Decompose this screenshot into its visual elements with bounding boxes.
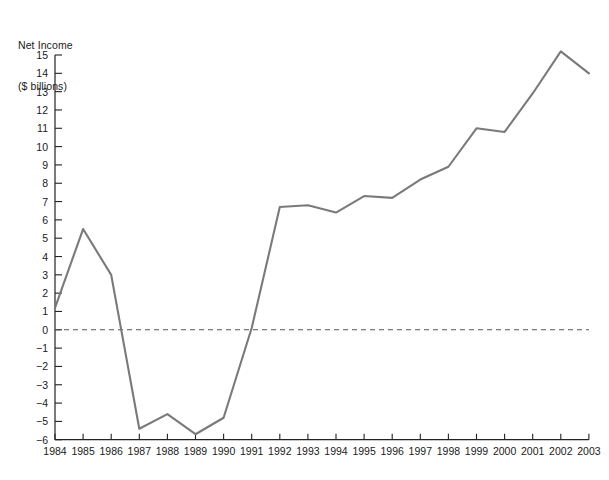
y-tick-label: 11 [37, 122, 48, 134]
x-tick-label: 2003 [577, 445, 601, 457]
x-tick-label: 1987 [128, 445, 152, 457]
x-tick-label: 1994 [324, 445, 348, 457]
x-tick-label: 1991 [240, 445, 264, 457]
y-axis-ticks: 1514131211109876543210−1−2−3−4−5−6 [36, 49, 62, 446]
x-tick-label: 1996 [381, 445, 405, 457]
net-income-series-line [55, 51, 589, 434]
y-tick-label: −5 [36, 415, 48, 427]
x-tick-label: 1986 [100, 445, 124, 457]
y-tick-label: 0 [42, 324, 48, 336]
y-tick-label: −3 [36, 379, 48, 391]
x-tick-label: 1984 [43, 445, 67, 457]
plot-area: 1514131211109876543210−1−2−3−4−5−6 19841… [0, 0, 609, 480]
y-tick-label: 6 [42, 214, 48, 226]
y-tick-label: 1 [42, 305, 48, 317]
x-tick-label: 1990 [212, 445, 236, 457]
y-tick-label: −4 [36, 397, 48, 409]
y-tick-label: 7 [42, 196, 48, 208]
x-tick-label: 1997 [409, 445, 433, 457]
x-tick-label: 1988 [156, 445, 180, 457]
x-tick-label: 1998 [437, 445, 461, 457]
x-tick-label: 1992 [268, 445, 292, 457]
x-tick-label: 1993 [296, 445, 320, 457]
net-income-line-chart: Net Income ($ billions) 1514131211109876… [0, 0, 609, 480]
y-tick-label: −1 [36, 342, 48, 354]
y-tick-label: 4 [42, 251, 48, 263]
x-tick-label: 1995 [352, 445, 376, 457]
y-tick-label: 13 [36, 86, 48, 98]
x-tick-label: 2000 [493, 445, 517, 457]
x-tick-label: 1989 [184, 445, 208, 457]
y-tick-label: −2 [36, 360, 48, 372]
y-tick-label: 2 [42, 287, 48, 299]
x-axis-ticks: 1984198519861987198819891990199119921993… [43, 434, 600, 457]
x-tick-label: 1985 [71, 445, 95, 457]
x-tick-label: 2001 [521, 445, 545, 457]
y-tick-label: 14 [36, 67, 48, 79]
x-tick-label: 2002 [549, 445, 573, 457]
x-tick-label: 1999 [465, 445, 489, 457]
y-tick-label: 8 [42, 177, 48, 189]
y-tick-label: 5 [42, 232, 48, 244]
y-tick-label: 12 [36, 104, 48, 116]
y-tick-label: 9 [42, 159, 48, 171]
y-tick-label: 10 [36, 141, 48, 153]
y-tick-label: 3 [42, 269, 48, 281]
y-tick-label: 15 [36, 49, 48, 61]
